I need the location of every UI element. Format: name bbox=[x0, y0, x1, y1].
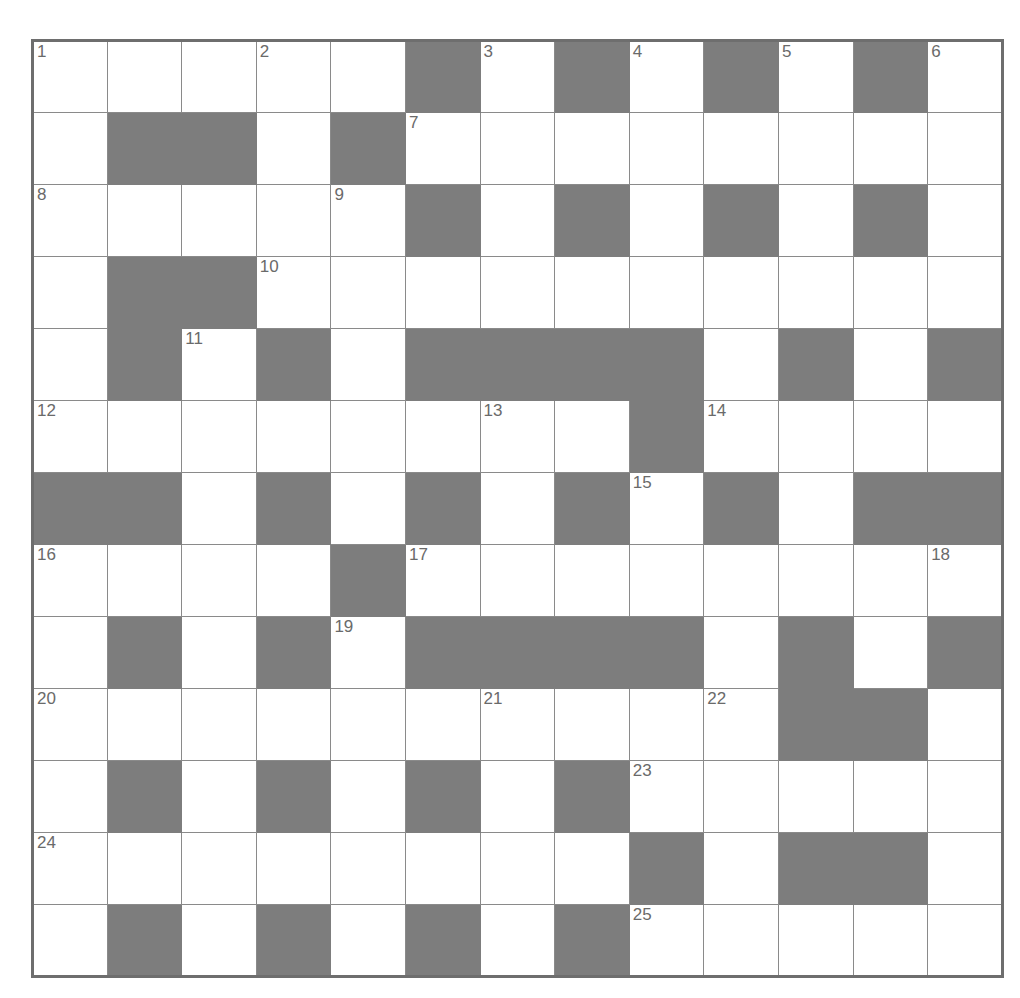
crossword-cell[interactable] bbox=[107, 833, 182, 905]
crossword-cell[interactable] bbox=[331, 905, 406, 977]
crossword-cell[interactable] bbox=[405, 257, 480, 329]
crossword-cell[interactable] bbox=[853, 617, 928, 689]
crossword-cell[interactable] bbox=[33, 113, 108, 185]
crossword-cell[interactable] bbox=[33, 617, 108, 689]
crossword-cell[interactable] bbox=[704, 329, 779, 401]
crossword-cell[interactable] bbox=[928, 905, 1003, 977]
crossword-cell[interactable] bbox=[853, 329, 928, 401]
crossword-cell[interactable] bbox=[107, 41, 182, 113]
crossword-cell[interactable]: 23 bbox=[629, 761, 704, 833]
crossword-cell[interactable] bbox=[928, 257, 1003, 329]
crossword-cell[interactable] bbox=[555, 257, 630, 329]
crossword-cell[interactable] bbox=[629, 689, 704, 761]
crossword-cell[interactable] bbox=[480, 473, 555, 545]
crossword-cell[interactable] bbox=[405, 689, 480, 761]
crossword-cell[interactable] bbox=[629, 113, 704, 185]
crossword-cell[interactable] bbox=[778, 401, 853, 473]
crossword-cell[interactable]: 16 bbox=[33, 545, 108, 617]
crossword-cell[interactable]: 2 bbox=[256, 41, 331, 113]
crossword-cell[interactable] bbox=[853, 257, 928, 329]
crossword-cell[interactable]: 12 bbox=[33, 401, 108, 473]
crossword-cell[interactable] bbox=[928, 401, 1003, 473]
crossword-cell[interactable] bbox=[182, 185, 257, 257]
crossword-cell[interactable] bbox=[256, 185, 331, 257]
crossword-cell[interactable] bbox=[405, 401, 480, 473]
crossword-cell[interactable] bbox=[853, 545, 928, 617]
crossword-cell[interactable] bbox=[182, 401, 257, 473]
crossword-cell[interactable] bbox=[928, 185, 1003, 257]
crossword-cell[interactable] bbox=[704, 113, 779, 185]
crossword-cell[interactable] bbox=[182, 689, 257, 761]
crossword-cell[interactable] bbox=[182, 761, 257, 833]
crossword-cell[interactable] bbox=[480, 185, 555, 257]
crossword-cell[interactable] bbox=[182, 617, 257, 689]
crossword-cell[interactable]: 3 bbox=[480, 41, 555, 113]
crossword-grid[interactable]: 1234567891011121314151617181920212223242… bbox=[31, 39, 1004, 978]
crossword-cell[interactable] bbox=[555, 401, 630, 473]
crossword-cell[interactable] bbox=[107, 689, 182, 761]
crossword-cell[interactable] bbox=[480, 113, 555, 185]
crossword-cell[interactable] bbox=[704, 761, 779, 833]
crossword-cell[interactable]: 20 bbox=[33, 689, 108, 761]
crossword-cell[interactable] bbox=[182, 41, 257, 113]
crossword-cell[interactable] bbox=[331, 473, 406, 545]
crossword-cell[interactable] bbox=[182, 473, 257, 545]
crossword-cell[interactable]: 24 bbox=[33, 833, 108, 905]
crossword-cell[interactable] bbox=[107, 545, 182, 617]
crossword-cell[interactable] bbox=[33, 257, 108, 329]
crossword-cell[interactable] bbox=[704, 545, 779, 617]
crossword-cell[interactable] bbox=[331, 41, 406, 113]
crossword-cell[interactable] bbox=[555, 545, 630, 617]
crossword-cell[interactable] bbox=[256, 833, 331, 905]
crossword-cell[interactable]: 8 bbox=[33, 185, 108, 257]
crossword-cell[interactable] bbox=[331, 833, 406, 905]
crossword-cell[interactable]: 25 bbox=[629, 905, 704, 977]
crossword-cell[interactable] bbox=[629, 257, 704, 329]
crossword-cell[interactable] bbox=[480, 761, 555, 833]
crossword-cell[interactable] bbox=[480, 905, 555, 977]
crossword-cell[interactable] bbox=[629, 185, 704, 257]
crossword-cell[interactable] bbox=[704, 257, 779, 329]
crossword-cell[interactable] bbox=[107, 185, 182, 257]
crossword-cell[interactable]: 18 bbox=[928, 545, 1003, 617]
crossword-cell[interactable] bbox=[555, 833, 630, 905]
crossword-cell[interactable] bbox=[256, 545, 331, 617]
crossword-cell[interactable] bbox=[928, 833, 1003, 905]
crossword-cell[interactable]: 15 bbox=[629, 473, 704, 545]
crossword-cell[interactable]: 19 bbox=[331, 617, 406, 689]
crossword-cell[interactable] bbox=[182, 905, 257, 977]
crossword-cell[interactable] bbox=[778, 761, 853, 833]
crossword-cell[interactable] bbox=[555, 689, 630, 761]
crossword-cell[interactable]: 14 bbox=[704, 401, 779, 473]
crossword-cell[interactable] bbox=[256, 689, 331, 761]
crossword-cell[interactable] bbox=[182, 833, 257, 905]
crossword-cell[interactable]: 11 bbox=[182, 329, 257, 401]
crossword-cell[interactable]: 17 bbox=[405, 545, 480, 617]
crossword-cell[interactable] bbox=[555, 113, 630, 185]
crossword-cell[interactable] bbox=[480, 833, 555, 905]
crossword-cell[interactable]: 22 bbox=[704, 689, 779, 761]
crossword-cell[interactable] bbox=[480, 257, 555, 329]
crossword-cell[interactable] bbox=[853, 761, 928, 833]
crossword-cell[interactable] bbox=[778, 257, 853, 329]
crossword-cell[interactable] bbox=[182, 545, 257, 617]
crossword-cell[interactable] bbox=[853, 113, 928, 185]
crossword-cell[interactable]: 1 bbox=[33, 41, 108, 113]
crossword-cell[interactable] bbox=[853, 401, 928, 473]
crossword-cell[interactable] bbox=[33, 761, 108, 833]
crossword-cell[interactable]: 13 bbox=[480, 401, 555, 473]
crossword-cell[interactable] bbox=[704, 617, 779, 689]
crossword-cell[interactable] bbox=[405, 833, 480, 905]
crossword-cell[interactable] bbox=[704, 833, 779, 905]
crossword-cell[interactable] bbox=[778, 473, 853, 545]
crossword-cell[interactable] bbox=[256, 401, 331, 473]
crossword-cell[interactable] bbox=[331, 761, 406, 833]
crossword-cell[interactable] bbox=[331, 257, 406, 329]
crossword-cell[interactable] bbox=[256, 113, 331, 185]
crossword-cell[interactable] bbox=[778, 185, 853, 257]
crossword-cell[interactable]: 21 bbox=[480, 689, 555, 761]
crossword-cell[interactable] bbox=[33, 329, 108, 401]
crossword-cell[interactable]: 9 bbox=[331, 185, 406, 257]
crossword-cell[interactable] bbox=[107, 401, 182, 473]
crossword-cell[interactable] bbox=[853, 905, 928, 977]
